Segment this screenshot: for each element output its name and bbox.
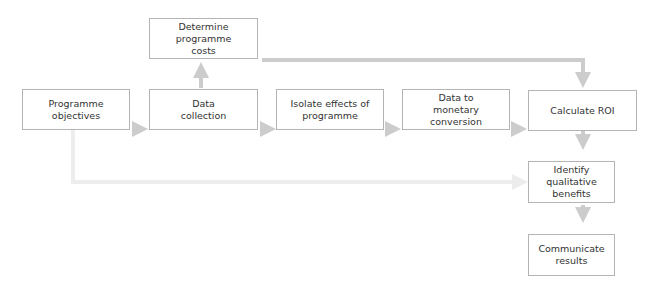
node-isolate-effects: Isolate effects of programme	[276, 89, 384, 130]
node-identify-qualitative: Identify qualitative benefits	[528, 161, 615, 203]
node-label: Data collection	[169, 98, 239, 122]
node-label: Communicate results	[535, 243, 609, 267]
arrow-costs-to-roi	[262, 60, 583, 80]
node-data-to-monetary: Data to monetary conversion	[402, 89, 510, 130]
node-data-collection: Data collection	[149, 89, 258, 130]
node-calculate-roi: Calculate ROI	[528, 90, 637, 131]
node-determine-programme-costs: Determine programme costs	[149, 18, 258, 59]
node-label: Isolate effects of programme	[281, 98, 379, 122]
node-label: Calculate ROI	[550, 105, 614, 117]
node-communicate-results: Communicate results	[528, 234, 615, 276]
node-programme-objectives: Programme objectives	[22, 89, 130, 130]
node-label: Determine programme costs	[166, 21, 242, 57]
node-label: Programme objectives	[27, 98, 125, 122]
arrow-objectives-to-qualitative	[73, 130, 520, 182]
node-label: Identify qualitative benefits	[539, 164, 605, 200]
node-label: Data to monetary conversion	[420, 92, 492, 128]
